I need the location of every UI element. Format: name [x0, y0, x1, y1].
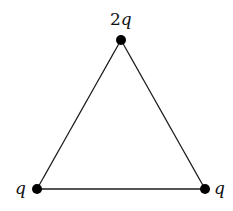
charge-label-left: q — [15, 178, 26, 198]
charge-label-top-symbol: q — [121, 9, 132, 29]
charge-dot-top — [116, 35, 126, 45]
charge-label-top-coef: 2 — [110, 9, 121, 29]
charge-dot-right — [200, 184, 210, 194]
charge-label-right: q — [214, 178, 225, 198]
charge-dot-left — [32, 184, 42, 194]
triangle-diagram: 2q q q — [0, 0, 233, 211]
edge-left — [37, 40, 121, 189]
triangle-edges — [37, 40, 205, 189]
charge-label-top: 2q — [110, 9, 132, 29]
edge-right — [121, 40, 205, 189]
